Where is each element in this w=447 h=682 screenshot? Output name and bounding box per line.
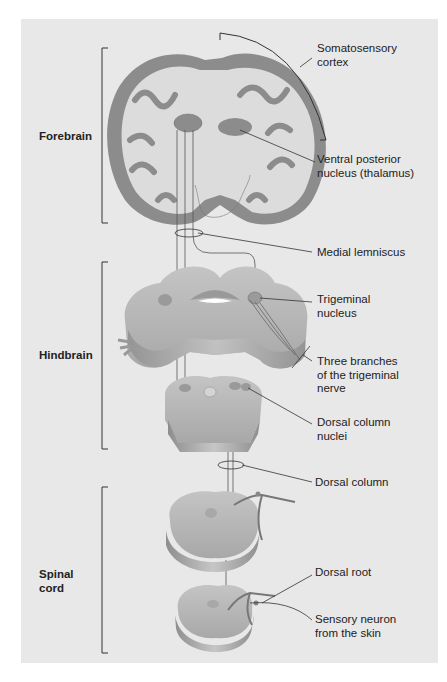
label-dorsal-column: Dorsal column [315,476,389,490]
spinal-cord-section-lower [175,585,275,652]
region-brackets [102,48,108,653]
region-label-hindbrain: Hindbrain [39,349,93,363]
region-label-spinal-cord: Spinal cord [39,568,74,595]
medulla-section [165,376,262,452]
spinal-cord-section-upper [166,491,295,572]
region-label-forebrain: Forebrain [39,130,92,144]
pons-section [118,267,307,369]
label-medial-lemniscus: Medial lemniscus [317,246,405,260]
label-somatosensory-cortex: Somatosensory cortex [317,42,397,69]
brain-coronal-section [107,54,326,225]
label-trigeminal-nucleus: Trigeminal nucleus [317,293,370,320]
label-dorsal-root: Dorsal root [315,566,371,580]
label-trigeminal-branches: Three branches of the trigeminal nerve [317,355,399,396]
label-sensory-neuron: Sensory neuron from the skin [315,613,396,640]
label-ventral-posterior-nucleus: Ventral posterior nucleus (thalamus) [317,153,414,180]
label-dorsal-column-nuclei: Dorsal column nuclei [317,416,391,443]
